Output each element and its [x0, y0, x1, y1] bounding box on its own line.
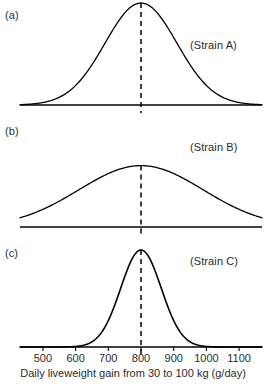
plot-canvas: [0, 0, 266, 384]
panel-label-b: (b): [5, 125, 19, 137]
strain-label-a: (Strain A): [190, 39, 237, 51]
curve-strain-a: [20, 3, 262, 105]
strain-label-c: (Strain C): [190, 255, 238, 267]
x-axis-tick-label: 500: [34, 352, 52, 364]
panel-a-group: [20, 3, 262, 113]
panel-label-c: (c): [5, 247, 18, 259]
x-axis-tick-label: 700: [99, 352, 117, 364]
x-axis-tick-label: 600: [66, 352, 84, 364]
strain-label-b: (Strain B): [190, 141, 237, 153]
figure-distribution-panels: (a) (b) (c) (Strain A) (Strain B) (Strai…: [0, 0, 266, 384]
x-axis-tick-label: 900: [165, 352, 183, 364]
x-axis-tick-label: 1100: [227, 352, 251, 364]
panel-b-group: [20, 166, 262, 235]
x-axis-tick-label: 1000: [194, 352, 218, 364]
curve-strain-b: [20, 166, 262, 218]
panel-label-a: (a): [5, 9, 19, 21]
x-axis-title: Daily liveweight gain from 30 to 100 kg …: [20, 367, 246, 379]
x-axis-tick-label: 800: [132, 352, 150, 364]
